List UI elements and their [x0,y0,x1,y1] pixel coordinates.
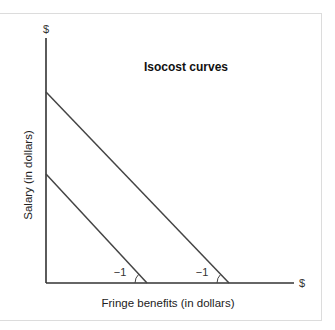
x-axis-label: Fringe benefits (in dollars) [102,297,235,309]
chart-title: Isocost curves [144,60,228,74]
isocost-line-higher [46,92,229,283]
slope-label-higher: −1 [196,266,209,278]
angle-arc-lower [135,274,139,283]
angle-arc-higher [217,274,221,283]
isocost-diagram: $ $ Isocost curves Fringe benefits (in d… [0,0,335,330]
x-axis-unit: $ [299,277,305,289]
slope-label-lower: −1 [114,266,127,278]
y-axis-label: Salary (in dollars) [22,130,34,220]
y-axis-unit: $ [43,23,49,35]
isocost-line-lower [46,174,147,283]
